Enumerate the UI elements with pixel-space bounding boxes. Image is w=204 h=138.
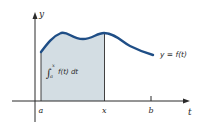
integral-upper-limit: x	[52, 62, 55, 68]
tick-label-b: b	[149, 106, 154, 115]
x-axis-label: t	[188, 107, 192, 117]
x-axis-arrow-icon	[183, 99, 190, 104]
tick-label-x: x	[102, 106, 107, 115]
y-axis-arrow-icon	[33, 12, 38, 19]
integral-lower-limit: a	[50, 73, 53, 79]
integral-area-diagram: y t a x b y = f(t) ∫ x a f(t) dt	[0, 0, 204, 138]
tick-label-a: a	[39, 106, 44, 115]
curve-label: y = f(t)	[159, 50, 187, 59]
integrand-label: f(t) dt	[58, 68, 78, 76]
y-axis-label: y	[38, 9, 45, 19]
